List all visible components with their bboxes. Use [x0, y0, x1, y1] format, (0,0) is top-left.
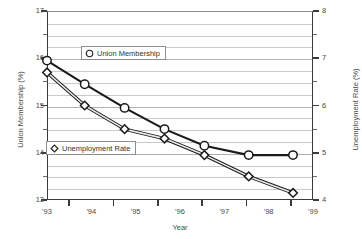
- data-point-diamond: [289, 189, 298, 198]
- series-unemployment-rate: [43, 68, 298, 197]
- legend-unemployment-label: Unemployment Rate: [62, 144, 130, 153]
- data-point-circle: [289, 151, 297, 159]
- chart-container: 178167156145134'93'94'95'96'97'98'99 Uni…: [0, 0, 362, 239]
- data-point-circle: [200, 142, 208, 150]
- circle-marker-icon: [85, 49, 94, 58]
- data-point-circle: [245, 151, 253, 159]
- data-point-circle: [81, 80, 89, 88]
- legend-unemployment-rate[interactable]: Unemployment Rate: [46, 141, 136, 155]
- diamond-marker-icon: [50, 144, 59, 153]
- y-axis-left-title: Union Membership (%): [16, 40, 25, 180]
- y-axis-right-title: Unemployment Rate (%): [351, 35, 360, 185]
- data-point-circle: [120, 104, 128, 112]
- data-point-circle: [160, 125, 168, 133]
- legend-union-label: Union Membership: [97, 49, 160, 58]
- data-point-circle: [43, 56, 51, 64]
- series-layer: [0, 0, 362, 239]
- legend-union-membership[interactable]: Union Membership: [81, 46, 166, 60]
- x-axis-title: Year: [47, 223, 313, 232]
